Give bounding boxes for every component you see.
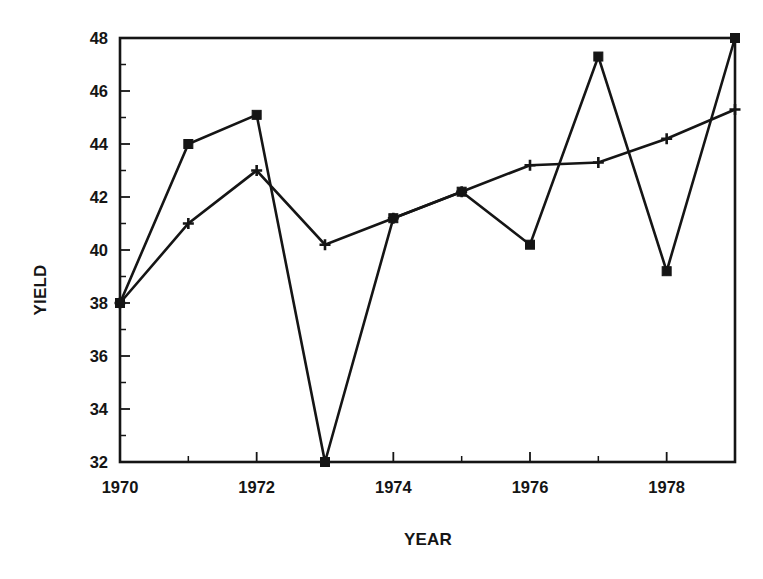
data-point-marker-square — [184, 140, 193, 149]
y-axis-title: YIELD — [31, 264, 50, 315]
data-point-marker-square — [731, 34, 740, 43]
x-tick-label: 1972 — [238, 478, 275, 496]
y-tick-label: 40 — [90, 241, 108, 259]
x-tick-label: 1978 — [648, 478, 685, 496]
data-point-marker-square — [252, 110, 261, 119]
y-tick-label: 48 — [90, 29, 108, 47]
data-point-marker-square — [526, 240, 535, 249]
data-point-marker-square — [594, 52, 603, 61]
y-tick-label: 36 — [90, 347, 108, 365]
x-tick-label: 1970 — [102, 478, 139, 496]
y-tick-label: 42 — [90, 188, 108, 206]
y-tick-label: 34 — [90, 400, 109, 418]
x-tick-label: 1976 — [512, 478, 549, 496]
y-tick-label: 46 — [90, 82, 108, 100]
chart-container: 323436384042444648 19701972197419761978 … — [0, 0, 763, 579]
data-point-marker-square — [662, 267, 671, 276]
data-point-marker-square — [321, 458, 330, 467]
y-tick-label: 44 — [90, 135, 109, 153]
x-axis-title: YEAR — [404, 530, 452, 549]
y-tick-label: 38 — [90, 294, 108, 312]
y-tick-label: 32 — [90, 453, 108, 471]
yield-vs-year-line-chart: 323436384042444648 19701972197419761978 … — [0, 0, 763, 579]
x-tick-label: 1974 — [375, 478, 413, 496]
y-axis-tick-labels: 323436384042444648 — [90, 29, 109, 471]
